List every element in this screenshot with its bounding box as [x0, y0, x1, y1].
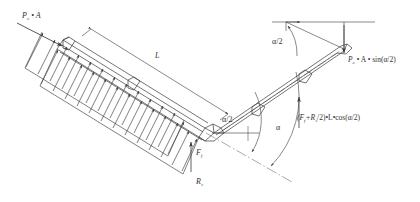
- label-moment-expression: (Ff+Rs/2)•L•cos(α/2): [297, 113, 361, 123]
- distributed-load-arrows: [40, 49, 199, 174]
- angle-arc-full: [271, 72, 299, 166]
- dimension-line-L: [82, 29, 228, 120]
- label-half-angle-upper-right: α/2: [272, 37, 282, 46]
- label-support-reaction: Rs: [195, 177, 203, 187]
- diagram-canvas: Pc • A L α/2 Pc • A • sin(α/2) α/2 α (Ff…: [0, 0, 420, 202]
- label-applied-pressure-force: Pc • A: [21, 11, 41, 21]
- label-length-dimension: L: [154, 51, 160, 60]
- angle-arc-half: [212, 92, 261, 152]
- label-full-angle: α: [276, 123, 281, 132]
- engineering-diagram: Pc • A L α/2 Pc • A • sin(α/2) α/2 α (Ff…: [0, 0, 420, 202]
- force-arrow-pressure: [17, 23, 62, 46]
- label-half-angle-left: α/2: [222, 115, 232, 124]
- label-friction-force: Ff: [195, 148, 203, 158]
- centerline-dash-dot: [206, 133, 292, 182]
- angle-arc-upper-right: [272, 22, 375, 56]
- left-pipe-segment: [57, 37, 208, 140]
- distributed-load-arrows-front: [25, 32, 184, 156]
- label-axial-component: Pc • A • sin(α/2): [347, 55, 396, 65]
